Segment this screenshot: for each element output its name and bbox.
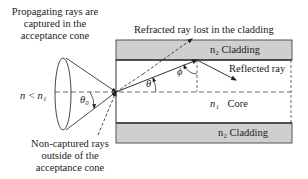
noncaptured-line-2: outside of the <box>20 150 120 162</box>
captured-line-3: acceptance cone <box>4 30 106 42</box>
captured-line-2: captured in the <box>4 18 106 30</box>
theta-label: θ <box>146 78 151 90</box>
core-index: n₁ <box>210 98 219 109</box>
refracted-ray-label: Refracted ray lost in the cladding <box>134 24 274 36</box>
fiber-diagram: Propagating rays are captured in the acc… <box>0 0 308 179</box>
theta0-label: θ₀ <box>80 94 89 106</box>
core-text: Core <box>228 98 248 109</box>
top-cladding <box>116 40 292 60</box>
outside-index-label: n < n₁ <box>20 90 47 102</box>
core-label: n₁ Core <box>210 98 248 110</box>
bottom-cladding-label: n₂ Cladding <box>218 127 268 139</box>
noncaptured-line-1: Non-captured rays <box>20 138 120 150</box>
captured-rays-label: Propagating rays are captured in the acc… <box>4 6 106 42</box>
noncaptured-line-3: acceptance cone <box>20 162 120 174</box>
captured-line-1: Propagating rays are <box>4 6 106 18</box>
reflected-ray-label: Reflected ray <box>229 63 285 75</box>
non-captured-rays-label: Non-captured rays outside of the accepta… <box>20 138 120 174</box>
acceptance-cone-base <box>55 58 71 130</box>
top-cladding-label: n₂ Cladding <box>210 44 260 56</box>
phi-label: ϕ <box>177 66 182 78</box>
